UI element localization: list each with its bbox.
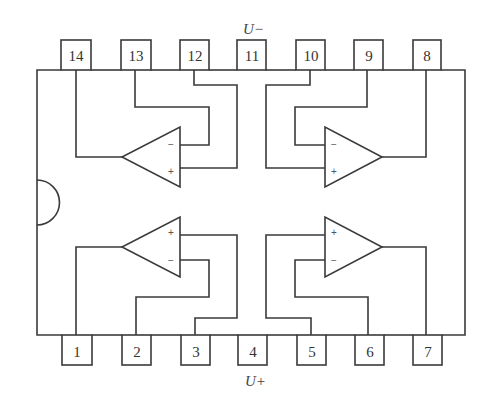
- pin-6: 6: [355, 335, 384, 365]
- svg-text:−: −: [331, 255, 337, 266]
- svg-text:−: −: [331, 139, 337, 150]
- pin-2: 2: [122, 335, 151, 365]
- svg-text:4: 4: [249, 344, 257, 360]
- svg-text:8: 8: [423, 48, 431, 64]
- svg-text:1: 1: [73, 344, 81, 360]
- svg-text:2: 2: [133, 344, 141, 360]
- pin1-notch: [37, 180, 60, 225]
- svg-text:12: 12: [188, 48, 203, 64]
- ic-pinout-diagram: U− U+ 14 13 12 11 10 9 8 1 2 3 4 5 6 7: [0, 0, 494, 408]
- svg-text:11: 11: [245, 48, 259, 64]
- svg-text:3: 3: [192, 344, 200, 360]
- wire-pin1-output: [76, 247, 122, 335]
- pin-1: 1: [62, 335, 92, 365]
- pin-3: 3: [181, 335, 210, 365]
- wire-pin13-inverting: [135, 70, 209, 145]
- supply-positive-label: U+: [245, 373, 266, 389]
- opamp-top-right: − +: [266, 70, 426, 187]
- pin-13: 13: [121, 40, 151, 70]
- opamp-triangle-icon: [122, 217, 180, 277]
- ic-body: [37, 70, 465, 335]
- pin-7: 7: [413, 335, 442, 365]
- wire-pin8-output: [382, 70, 426, 157]
- wire-pin7-output: [382, 247, 426, 335]
- opamp-triangle-icon: [122, 127, 180, 187]
- svg-text:10: 10: [304, 48, 319, 64]
- svg-text:13: 13: [129, 48, 144, 64]
- opamp-bottom-left: + −: [76, 217, 237, 335]
- wire-pin6-inverting: [295, 260, 368, 335]
- wire-pin9-inverting: [295, 70, 367, 145]
- pin-14: 14: [61, 40, 91, 70]
- wire-pin2-inverting: [136, 260, 209, 335]
- opamp-triangle-icon: [325, 127, 382, 187]
- svg-text:+: +: [331, 166, 337, 177]
- pin-10: 10: [296, 40, 325, 70]
- pin-11: 11: [237, 40, 266, 70]
- supply-negative-label: U−: [243, 21, 264, 37]
- svg-text:+: +: [331, 227, 337, 238]
- wire-pin14-output: [76, 70, 122, 157]
- svg-text:−: −: [168, 139, 174, 150]
- pin-9: 9: [354, 40, 383, 70]
- svg-text:−: −: [168, 255, 174, 266]
- pins-top: 14 13 12 11 10 9 8: [61, 40, 441, 70]
- svg-text:+: +: [168, 166, 174, 177]
- pins-bottom: 1 2 3 4 5 6 7: [62, 335, 442, 365]
- svg-text:+: +: [168, 227, 174, 238]
- svg-text:6: 6: [366, 344, 374, 360]
- svg-text:5: 5: [308, 344, 316, 360]
- opamp-top-left: − +: [76, 70, 237, 187]
- pin-8: 8: [413, 40, 441, 70]
- svg-text:14: 14: [69, 48, 85, 64]
- svg-text:7: 7: [424, 344, 432, 360]
- svg-text:9: 9: [365, 48, 373, 64]
- opamp-triangle-icon: [325, 217, 382, 277]
- pin-4: 4: [238, 335, 267, 365]
- pin-12: 12: [180, 40, 209, 70]
- opamp-bottom-right: + −: [266, 217, 426, 335]
- pin-5: 5: [297, 335, 326, 365]
